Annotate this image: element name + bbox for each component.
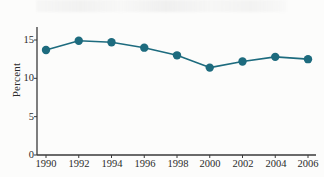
data-point-marker-2004 xyxy=(271,53,279,61)
data-point-marker-1990 xyxy=(42,46,50,54)
data-point-marker-1996 xyxy=(140,43,148,51)
data-point-marker-2000 xyxy=(206,63,214,71)
data-point-marker-2002 xyxy=(238,57,246,65)
data-point-marker-1992 xyxy=(75,37,83,45)
plot-area xyxy=(0,0,324,177)
data-point-marker-1994 xyxy=(107,38,115,46)
data-point-markers xyxy=(42,37,312,72)
data-point-marker-1998 xyxy=(173,51,181,59)
chart-figure: Percent 15 10 5 0 1990 1992 1994 1996 19… xyxy=(0,0,324,177)
data-point-marker-2006 xyxy=(304,55,312,63)
